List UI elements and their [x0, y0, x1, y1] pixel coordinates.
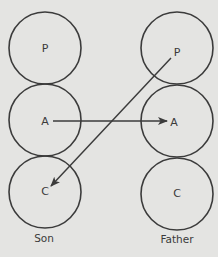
father-child-state: C — [141, 158, 213, 230]
father-parent-state: P — [141, 12, 213, 84]
son-child-state: C — [9, 156, 81, 228]
son-p-label: P — [42, 42, 49, 55]
father-c-label: C — [173, 187, 181, 200]
son-c-label: C — [41, 185, 49, 198]
son-adult-state: A — [9, 84, 81, 156]
father-p-label: P — [174, 46, 181, 59]
father-column: P A C Father — [141, 12, 213, 245]
father-a-label: A — [170, 116, 178, 129]
son-a-label: A — [41, 115, 49, 128]
son-column-label: Son — [34, 232, 54, 244]
transaction-diagram: P A C Son P A C Father — [0, 0, 218, 257]
son-parent-state: P — [9, 12, 81, 84]
son-column: P A C Son — [9, 12, 81, 244]
father-column-label: Father — [160, 233, 194, 245]
